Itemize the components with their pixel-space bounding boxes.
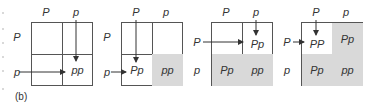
col-label-p: p — [246, 6, 266, 18]
cell-0-0 — [212, 23, 243, 55]
col-label-P: P — [216, 6, 236, 18]
grid: Pp pp — [121, 22, 183, 86]
cell-1-1: pp — [332, 54, 363, 86]
col-label-p: p — [156, 6, 176, 18]
punnett-square-4: P p P p PP Pp Pp pp — [301, 0, 378, 100]
figure-caption: (b) — [15, 91, 27, 102]
cell-1-1: pp — [152, 54, 183, 86]
punnett-square-2: P p P p Pp pp — [121, 0, 216, 100]
row-label-p: p — [191, 64, 203, 76]
cell-0-1 — [62, 23, 93, 55]
row-label-p: p — [281, 64, 293, 76]
cell-1-1: pp — [242, 54, 273, 86]
row-label-p: p — [101, 66, 113, 78]
punnett-square-1: P p P p pp — [31, 0, 126, 100]
edge-dots-decoration — [2, 0, 5, 100]
cell-1-0 — [32, 54, 63, 86]
row-label-P: P — [191, 36, 203, 48]
col-label-p: p — [66, 6, 86, 18]
col-label-P: P — [36, 6, 56, 18]
cell-0-0: PP — [302, 23, 333, 55]
cell-0-1: Pp — [332, 23, 363, 55]
cell-1-1: pp — [62, 54, 93, 86]
grid: pp — [31, 22, 93, 86]
col-label-p: p — [336, 6, 356, 18]
grid: PP Pp Pp pp — [301, 22, 363, 86]
grid: Pp Pp pp — [211, 22, 273, 86]
cell-1-0: Pp — [302, 54, 333, 86]
cell-1-0: Pp — [122, 54, 153, 86]
cell-0-1 — [152, 23, 183, 55]
row-label-p: p — [11, 66, 23, 78]
cell-0-0 — [32, 23, 63, 55]
cell-1-0: Pp — [212, 54, 243, 86]
col-label-P: P — [306, 6, 326, 18]
cell-0-0 — [122, 23, 153, 55]
row-label-P: P — [101, 31, 113, 43]
col-label-P: P — [126, 6, 146, 18]
cell-0-1: Pp — [242, 23, 273, 55]
punnett-square-3: P p P p Pp Pp pp — [211, 0, 306, 100]
row-label-P: P — [11, 31, 23, 43]
row-label-P: P — [281, 36, 293, 48]
